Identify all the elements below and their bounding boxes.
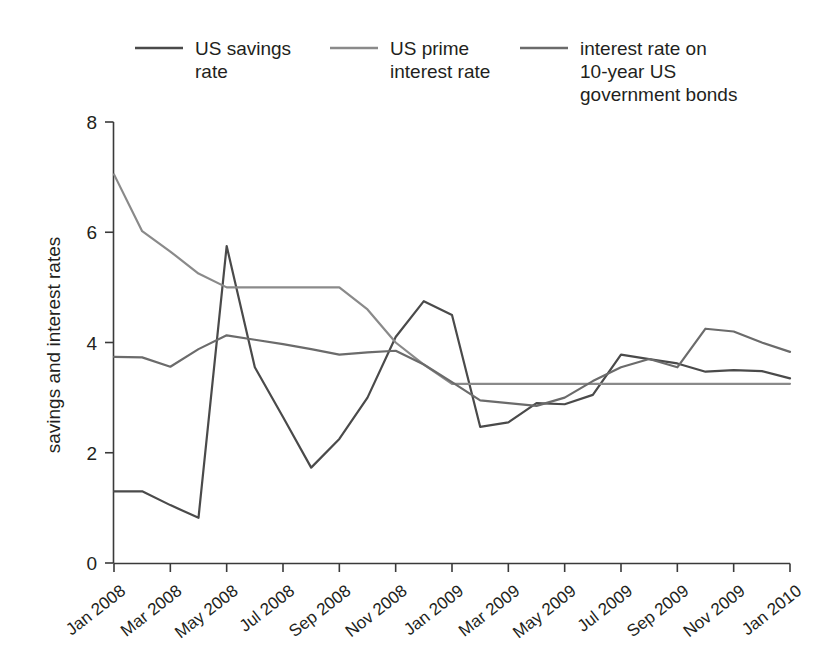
legend-label-1: interest rate	[390, 61, 490, 82]
y-axis-title: savings and interest rates	[43, 237, 64, 454]
x-tick-label: Nov 2009	[680, 581, 749, 641]
x-tick-label: Jan 2008	[62, 581, 129, 639]
y-axis-ticks: 02468	[86, 112, 113, 574]
x-tick-label: May 2009	[509, 581, 580, 642]
legend-label-2: government bonds	[580, 84, 737, 105]
chart-series	[114, 174, 790, 517]
legend-label-2: 10-year US	[580, 61, 676, 82]
x-axis-ticks: Jan 2008Mar 2008May 2008Jul 2008Sep 2008…	[62, 564, 805, 643]
chart-legend: US savingsrateUS primeinterest rateinter…	[135, 38, 737, 105]
x-tick-label: Nov 2008	[342, 581, 411, 641]
y-tick-label: 8	[86, 112, 97, 133]
x-tick-label: Jan 2010	[738, 581, 805, 639]
chart-figure: US savingsrateUS primeinterest rateinter…	[0, 0, 834, 660]
legend-label-0: rate	[195, 61, 228, 82]
legend-label-2: interest rate on	[580, 38, 707, 59]
legend-label-0: US savings	[195, 38, 291, 59]
y-tick-label: 6	[86, 222, 97, 243]
y-tick-label: 4	[86, 333, 97, 354]
y-tick-label: 2	[86, 443, 97, 464]
x-tick-label: May 2008	[171, 581, 242, 642]
legend-label-1: US prime	[390, 38, 469, 59]
x-tick-label: Jan 2009	[400, 581, 467, 639]
y-tick-label: 0	[86, 553, 97, 574]
x-tick-label: Sep 2009	[623, 581, 692, 641]
line-chart-canvas: US savingsrateUS primeinterest rateinter…	[0, 0, 834, 660]
x-tick-label: Sep 2008	[285, 581, 354, 641]
